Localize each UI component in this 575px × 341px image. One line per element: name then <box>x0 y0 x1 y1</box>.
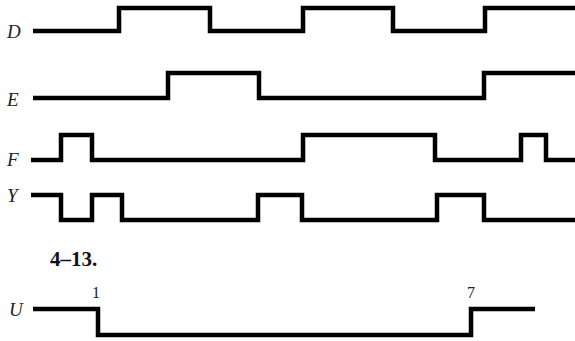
waveform <box>31 135 575 160</box>
signal-label: Y <box>7 185 20 206</box>
signal-label: U <box>9 299 24 320</box>
timing-signal-e: E <box>6 73 575 110</box>
waveform <box>33 73 575 98</box>
section-title: 4–13. <box>50 247 97 271</box>
timing-diagram: DEFY 4–13. U17 <box>0 0 575 341</box>
signal-label: E <box>6 89 19 110</box>
signal-label: F <box>6 149 19 170</box>
signal-label: D <box>6 21 21 42</box>
waveform <box>33 8 575 31</box>
waveform <box>33 309 535 335</box>
time-marker: 7 <box>467 284 475 301</box>
timing-signal-f: F <box>6 135 575 170</box>
problem-signal-u: U17 <box>9 284 535 335</box>
timing-signal-d: D <box>6 8 575 42</box>
timing-signal-y: Y <box>7 185 575 220</box>
waveform <box>31 195 575 220</box>
time-marker: 1 <box>92 284 100 301</box>
